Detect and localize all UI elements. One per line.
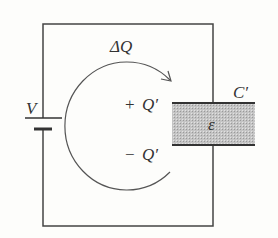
plus-charge-label: Q′ (142, 95, 158, 114)
capacitor-label: C′ (233, 83, 248, 102)
dielectric-label: ε (208, 115, 215, 134)
battery-icon (25, 118, 62, 129)
voltage-label: V (26, 99, 39, 118)
plus-sign: + (125, 95, 135, 114)
circuit-diagram: V ΔQ + Q′ − Q′ C′ ε (0, 0, 278, 238)
minus-sign: − (125, 145, 135, 164)
minus-charge-label: Q′ (142, 145, 158, 164)
charge-flow-label: ΔQ (109, 37, 132, 56)
charge-flow-arrow-icon (65, 62, 171, 190)
